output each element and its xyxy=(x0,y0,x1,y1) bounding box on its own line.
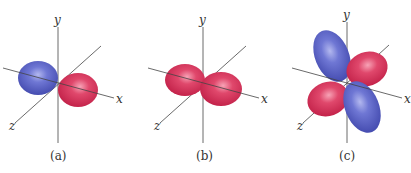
caption-a: (a) xyxy=(50,150,67,162)
panel-b: y x z (b) xyxy=(135,0,275,173)
y-axis-label: y xyxy=(343,9,350,21)
caption-b: (b) xyxy=(196,150,213,162)
x-axis-label: x xyxy=(404,93,411,105)
lobe-negative-x xyxy=(165,64,205,96)
z-axis-label: z xyxy=(297,120,303,132)
lobe-positive-x xyxy=(200,72,242,106)
orbital-diagram-c xyxy=(270,0,411,173)
y-axis-label: y xyxy=(54,14,61,26)
orbital-diagram-a xyxy=(0,0,140,173)
lobe-negative-x xyxy=(18,61,58,95)
panel-c: y x z (c) xyxy=(270,0,411,173)
z-axis-label: z xyxy=(154,120,160,132)
caption-c: (c) xyxy=(339,150,355,162)
panel-a: y x z (a) xyxy=(0,0,140,173)
x-axis-label: x xyxy=(261,93,268,105)
y-axis-label: y xyxy=(199,14,206,26)
z-axis-label: z xyxy=(9,120,15,132)
lobe-positive-x xyxy=(58,73,98,107)
x-axis-label: x xyxy=(116,93,123,105)
